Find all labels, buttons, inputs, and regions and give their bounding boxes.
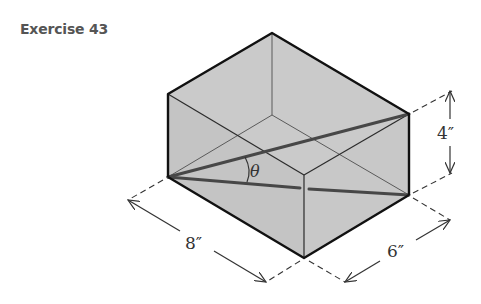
box-figure: θ 8″ 6″ 4″	[0, 0, 481, 304]
ext-right-top	[413, 91, 452, 112]
dim-8-arrow-a	[128, 200, 180, 231]
ext-left	[128, 180, 163, 200]
dim-height-label: 4″	[437, 123, 454, 143]
dim-width-label: 6″	[387, 241, 404, 261]
ext-bottom-left	[266, 261, 300, 282]
ext-bottom-right	[309, 261, 345, 282]
dim-6-arrow-a	[416, 220, 450, 240]
dim-6-arrow-b	[345, 261, 380, 282]
dim-8-arrow-b	[214, 251, 266, 282]
angle-theta-label: θ	[250, 162, 260, 181]
ext-right-bottom	[413, 173, 452, 193]
dim-length-label: 8″	[185, 233, 202, 253]
ext-right-lower	[413, 198, 450, 220]
